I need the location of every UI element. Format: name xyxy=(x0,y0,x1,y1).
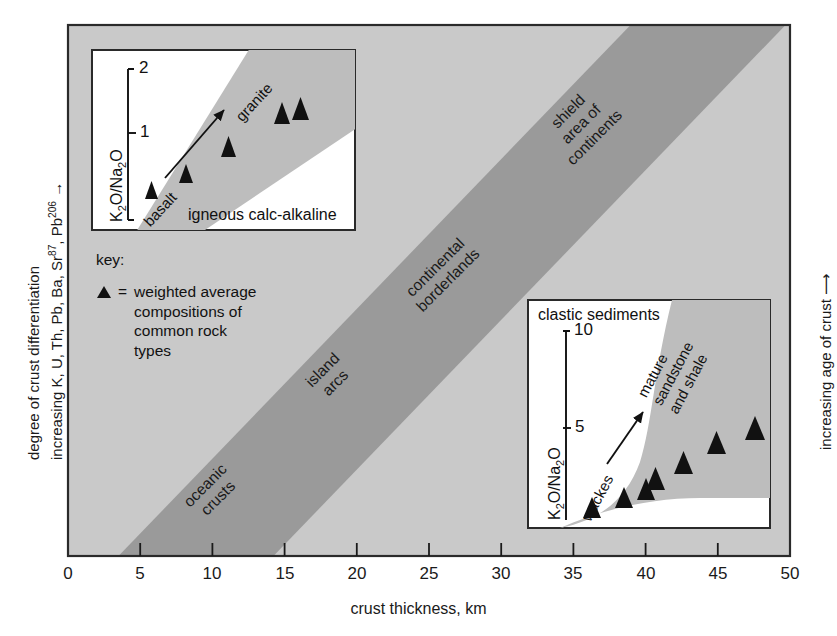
inset-igneous-title: igneous calc-alkaline xyxy=(188,206,337,224)
inset-clastic-ylabel-k: K xyxy=(546,509,563,520)
x-tick-15: 15 xyxy=(276,564,295,584)
left-axis-label-line2: increasing K, U, Th, Pb, Ba, Sr87, Pb206… xyxy=(48,182,65,460)
inset-igneous-ylabel-sub2: 2 xyxy=(116,205,128,211)
inset-igneous-ylabel-sub2b: 2 xyxy=(116,162,128,168)
x-tick-5: 5 xyxy=(135,564,144,584)
left-axis-label-pb206: 206 xyxy=(47,201,58,218)
inset-clastic-ytick-5: 5 xyxy=(575,417,584,437)
inset-igneous-ylabel-k: K xyxy=(108,211,125,222)
inset-clastic-ylabel-o2: O xyxy=(546,447,563,459)
x-tick-20: 20 xyxy=(348,564,367,584)
x-tick-10: 10 xyxy=(203,564,222,584)
inset-igneous-ylabel: K2O/Na2O xyxy=(108,149,128,222)
left-axis-label-sr87: 87 xyxy=(47,245,58,256)
inset-igneous-ylabel-ona: O/Na xyxy=(108,168,125,205)
left-axis-arrow-icon: → xyxy=(48,182,65,197)
inset-igneous-ytick-1: 1 xyxy=(140,122,149,142)
right-axis-arrow-icon: ⟶ xyxy=(817,273,834,295)
inset-clastic-ylabel-ona: O/Na xyxy=(546,466,563,503)
right-axis-label-text: increasing age of crust xyxy=(817,299,834,450)
key-title: key: xyxy=(96,250,256,270)
x-tick-50: 50 xyxy=(781,564,800,584)
right-axis-label: increasing age of crust ⟶ xyxy=(818,273,834,450)
inset-clastic-ytick-10: 10 xyxy=(574,320,593,340)
key-line-4: types xyxy=(134,341,256,361)
x-tick-25: 25 xyxy=(420,564,439,584)
inset-igneous-group xyxy=(92,48,360,232)
key-description: weighted average compositions of common … xyxy=(134,282,256,361)
x-tick-0: 0 xyxy=(63,564,72,584)
figure-root: degree of crust differentiation increasi… xyxy=(0,0,837,636)
key-entry: = weighted average compositions of commo… xyxy=(96,282,256,361)
key-block: key: = weighted average compositions of … xyxy=(96,250,256,361)
key-line-2: compositions of xyxy=(134,302,256,322)
left-axis-label-line2-prefix: increasing K, U, Th, Pb, Ba, Sr xyxy=(48,256,65,460)
key-line-1: weighted average xyxy=(134,282,256,302)
left-axis-label-line1: degree of crust differentiation xyxy=(26,266,42,460)
x-tick-45: 45 xyxy=(709,564,728,584)
x-tick-30: 30 xyxy=(492,564,511,584)
inset-clastic-ylabel-sub2: 2 xyxy=(554,503,566,509)
inset-igneous-ytick-2: 2 xyxy=(139,58,148,78)
inset-clastic-ylabel: K2O/Na2O xyxy=(546,447,566,520)
x-axis-title: crust thickness, km xyxy=(350,600,486,618)
inset-clastic-ylabel-sub2b: 2 xyxy=(554,460,566,466)
key-equals-sign: = xyxy=(118,282,127,302)
left-axis-label-line2-mid: , Pb xyxy=(48,218,65,245)
x-tick-35: 35 xyxy=(564,564,583,584)
x-tick-40: 40 xyxy=(637,564,656,584)
key-line-3: common rock xyxy=(134,321,256,341)
inset-igneous-ylabel-o2: O xyxy=(108,149,125,161)
inset-clastic-title: clastic sediments xyxy=(538,306,660,324)
triangle-marker-icon xyxy=(96,285,112,299)
